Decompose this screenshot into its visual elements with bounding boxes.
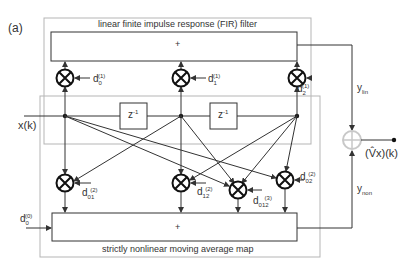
coef-d0-1: d0(1) — [93, 74, 105, 84]
fir-sum-symbol: + — [175, 40, 180, 49]
coef-d012-3: d012(3) — [253, 196, 272, 206]
multiplier-d012 — [230, 182, 247, 199]
input-label: x(k) — [18, 120, 36, 131]
multiplier-d12 — [173, 175, 190, 192]
y-non-label: ynon — [357, 184, 372, 194]
delay-label-2: z-1 — [218, 110, 228, 120]
output-adder — [343, 131, 361, 149]
nonlinear-title: strictly nonlinear moving average map — [102, 245, 254, 254]
y-lin-label: ylin — [357, 83, 368, 93]
multiplier-d01 — [57, 175, 74, 192]
coef-d0-0: d0(0) — [20, 214, 32, 224]
panel-label: (a) — [8, 22, 23, 34]
multiplier-d02 — [277, 172, 294, 189]
coef-d01-2: d01(2) — [82, 188, 98, 198]
fir-sum-box — [51, 32, 297, 61]
output-label: (V̂x)(k) — [365, 148, 398, 159]
fir-volterra-diagram — [0, 0, 414, 276]
multiplier-top-0 — [57, 70, 74, 87]
multiplier-top-1 — [173, 70, 190, 87]
nonlinear-sum-symbol: + — [175, 223, 180, 232]
coef-d1-1: d1(1) — [208, 74, 220, 84]
output-node — [392, 138, 396, 142]
coef-d2-1: d2(1) — [297, 84, 309, 94]
coef-d02-2: d02(2) — [300, 172, 316, 182]
delay-label-1: z-1 — [128, 110, 138, 120]
coef-d12-2: d12(2) — [197, 187, 213, 197]
fir-title: linear finite impulse response (FIR) fil… — [98, 20, 257, 29]
